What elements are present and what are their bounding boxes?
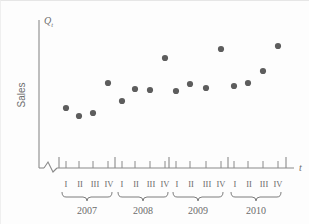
data-point: [187, 81, 193, 87]
year-label: 2009: [188, 205, 208, 216]
data-point: [105, 80, 111, 86]
data-point: [245, 80, 251, 86]
year-braces: [62, 192, 281, 201]
quarter-label: IV: [274, 179, 284, 189]
x-axis-variable-label: t: [299, 162, 302, 173]
data-point: [119, 98, 125, 104]
quarter-label: II: [246, 179, 252, 189]
quarter-label: II: [188, 179, 194, 189]
quarter-tick-labels: I II III IV I II III IV I II III IV I II…: [65, 179, 284, 189]
year-label: 2008: [133, 205, 153, 216]
axis-break-zigzag-icon: [44, 162, 57, 172]
quarter-label: IV: [105, 179, 115, 189]
chart-figure: I II III IV I II III IV I II III IV I II…: [0, 0, 309, 224]
quarter-label: III: [91, 179, 100, 189]
quarter-label: I: [65, 179, 68, 189]
data-point: [173, 88, 179, 94]
year-labels: 2007 2008 2009 2010: [77, 205, 266, 216]
data-point: [231, 83, 237, 89]
x-axis-ticks: [66, 161, 278, 168]
quarter-label: IV: [161, 179, 171, 189]
year-label: 2007: [77, 205, 97, 216]
data-point: [218, 46, 224, 52]
y-axis-variable-label: Qt: [44, 15, 53, 28]
data-point: [76, 113, 82, 119]
y-axis-title: Sales: [16, 82, 27, 107]
quarter-label: II: [77, 179, 83, 189]
quarter-label: III: [203, 179, 212, 189]
quarter-label: II: [133, 179, 139, 189]
data-point: [63, 105, 69, 111]
data-point: [275, 43, 281, 49]
data-point: [90, 110, 96, 116]
year-label: 2010: [246, 205, 266, 216]
data-point: [132, 86, 138, 92]
data-point: [147, 87, 153, 93]
quarter-label: I: [234, 179, 237, 189]
quarter-label: IV: [217, 179, 227, 189]
quarter-label: III: [147, 179, 156, 189]
data-points: [63, 43, 281, 119]
quarter-label: I: [176, 179, 179, 189]
quarter-label: I: [121, 179, 124, 189]
quarter-label: III: [260, 179, 269, 189]
data-point: [203, 85, 209, 91]
data-point: [162, 55, 168, 61]
data-point: [260, 68, 266, 74]
scatter-plot: I II III IV I II III IV I II III IV I II…: [0, 0, 309, 224]
